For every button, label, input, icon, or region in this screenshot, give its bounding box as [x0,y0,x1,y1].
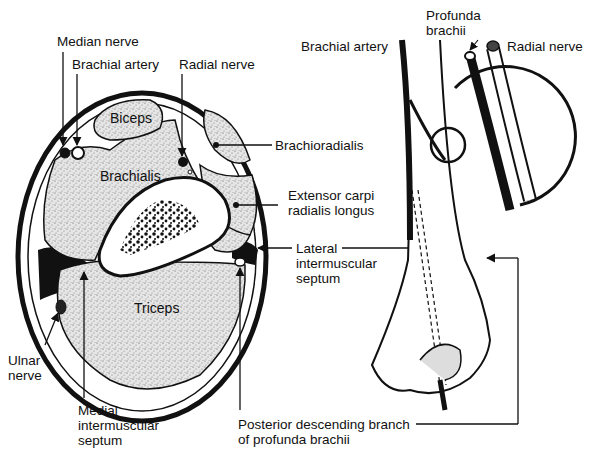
brachioradialis-label: Brachioradialis [275,138,364,153]
radial-nerve-label: Radial nerve [179,57,255,72]
median-nerve-dot [60,148,70,158]
triceps-label: Triceps [134,300,179,316]
side-radial-nerve-label: Radial nerve [507,39,583,54]
side-brachial-artery-label: Brachial artery [301,39,388,54]
brachial-artery-dot [72,147,84,159]
humerus-side [372,40,490,393]
brachial-artery-label: Brachial artery [72,57,159,72]
side-view [372,40,575,410]
arm-anatomy-figure: Biceps Brachialis Triceps Median nerve B… [0,0,601,456]
median-nerve-label: Median nerve [57,34,139,49]
ulnar-nerve-label: Ulnar nerve [8,353,42,383]
posterior-branch-vessel [235,258,245,266]
brachialis-label: Brachialis [100,168,161,184]
ulnar-nerve-dot [56,300,66,314]
biceps-label: Biceps [110,110,152,126]
radial-nerve-dot [178,157,188,167]
profunda-brachii-label: Profunda brachii [426,8,481,38]
posterior-branch-label: Posterior descending branch of profunda … [238,417,410,447]
medial-septum-label: Medial intermuscular septum [78,403,159,448]
extensor-carpi-label: Extensor carpi radialis longus [288,188,374,218]
lateral-septum-label: Lateral intermuscular septum [296,241,377,286]
